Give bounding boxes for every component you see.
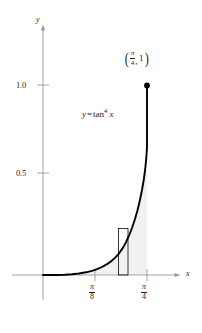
eight-denominator: 8	[89, 293, 95, 301]
endpoint-marker	[144, 83, 150, 89]
figure-canvas: y x 1.0 0.5 π 8 π 4 ( π 4 , 1 ) y=tan4 x	[0, 0, 202, 333]
pi-numerator: π	[141, 283, 147, 291]
y-tick-label-0.5: 0.5	[16, 169, 26, 178]
x-tick-label-pi-over-4: π 4	[141, 283, 147, 302]
equation-function: tan	[93, 109, 104, 119]
plot-svg	[0, 0, 202, 333]
point-coordinate-label: ( π 4 , 1 )	[124, 50, 150, 67]
close-paren: )	[145, 50, 149, 67]
open-paren: (	[125, 50, 129, 67]
y-tick-label-1.0: 1.0	[16, 81, 26, 90]
four-denominator: 4	[141, 293, 147, 301]
y-axis-arrowhead	[41, 25, 45, 31]
point-y-value: 1	[139, 54, 145, 63]
y-axis-label: y	[36, 16, 40, 24]
equation-argument: x	[109, 109, 113, 119]
equation-label: y=tan4 x	[82, 110, 113, 119]
x-tick-label-pi-over-8: π 8	[89, 283, 95, 302]
equation-exponent: 4	[104, 107, 107, 114]
x-axis-arrowhead	[175, 273, 181, 277]
x-axis-label: x	[186, 270, 190, 278]
pi-numerator: π	[89, 283, 95, 291]
